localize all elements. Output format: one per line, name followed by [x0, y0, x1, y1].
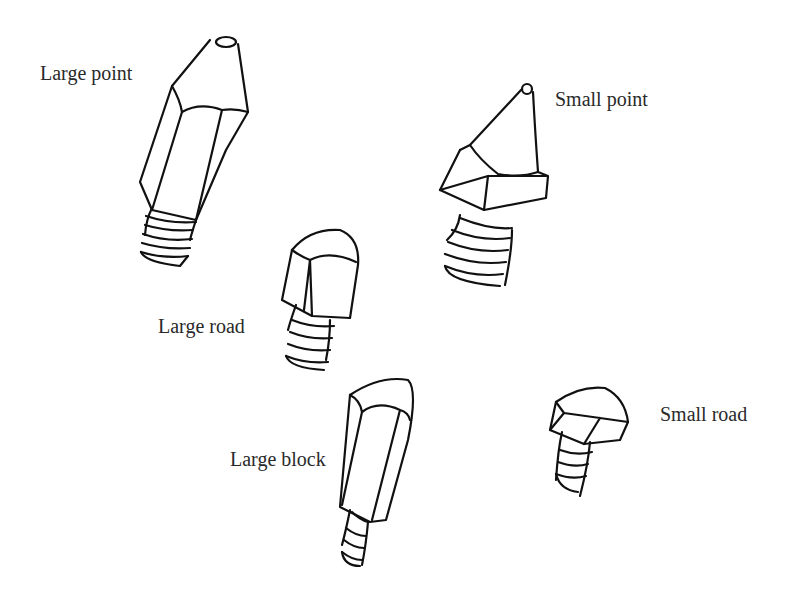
large-road-stud-drawing — [282, 230, 358, 370]
small-road-stud-drawing — [550, 388, 628, 496]
large-block-stud-drawing — [340, 379, 413, 566]
large-point-stud-drawing — [140, 37, 248, 266]
small-point-stud-drawing — [440, 84, 548, 286]
